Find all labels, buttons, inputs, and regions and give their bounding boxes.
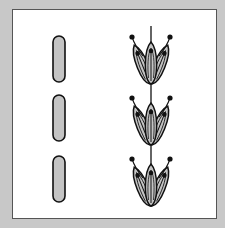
flower-cluster-3 [129, 156, 173, 208]
flower-cluster-column [129, 34, 173, 208]
petal [145, 103, 156, 145]
stamen-dot [129, 156, 134, 161]
bud-pill-3 [53, 156, 65, 202]
bud-pill-1 [53, 36, 65, 82]
stamen-dot [167, 156, 172, 161]
bud-column [53, 36, 65, 202]
stamen-dot [167, 34, 172, 39]
botanical-illustration [0, 0, 225, 228]
petal [145, 164, 156, 206]
stamen-dot [129, 95, 134, 100]
stamen-dot [129, 34, 134, 39]
flower-cluster-2 [129, 95, 173, 147]
petal [145, 42, 156, 84]
flower-cluster-1 [129, 34, 173, 86]
stamen-dot [167, 95, 172, 100]
bud-pill-2 [53, 95, 65, 141]
